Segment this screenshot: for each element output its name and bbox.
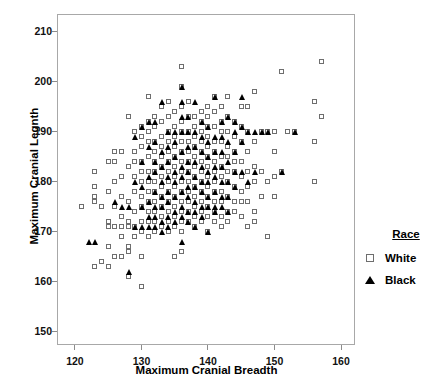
data-point-white — [279, 69, 284, 74]
data-point-black — [152, 169, 158, 175]
data-point-white — [312, 139, 317, 144]
data-point-white — [225, 154, 230, 159]
data-point-black — [172, 219, 178, 225]
data-point-black — [192, 99, 198, 105]
data-point-black — [172, 209, 178, 215]
data-point-white — [199, 109, 204, 114]
x-axis-tick — [207, 345, 208, 350]
data-point-white — [99, 259, 104, 264]
data-point-black — [225, 194, 231, 200]
data-point-black — [212, 134, 218, 140]
data-point-black — [165, 174, 171, 180]
data-point-black — [225, 179, 231, 185]
data-point-black — [205, 179, 211, 185]
data-point-white — [192, 114, 197, 119]
data-point-black — [225, 209, 231, 215]
data-point-white — [139, 254, 144, 259]
y-axis-tick-label: 200 — [18, 76, 52, 86]
data-point-black — [165, 129, 171, 135]
data-point-black — [179, 149, 185, 155]
data-point-white — [172, 109, 177, 114]
data-point-white — [179, 249, 184, 254]
data-point-white — [139, 194, 144, 199]
data-point-black — [146, 119, 152, 125]
data-point-white — [119, 234, 124, 239]
data-point-white — [126, 164, 131, 169]
data-point-white — [172, 124, 177, 129]
data-point-black — [165, 214, 171, 220]
legend-item-white[interactable]: White — [361, 248, 440, 268]
data-point-black — [112, 199, 118, 205]
data-point-white — [106, 159, 111, 164]
data-point-black — [165, 159, 171, 165]
data-point-black — [205, 124, 211, 130]
data-point-black — [185, 129, 191, 135]
data-point-white — [232, 199, 237, 204]
y-axis-tick-label: 160 — [18, 276, 52, 286]
data-point-black — [152, 214, 158, 220]
x-axis-tick-label: 120 — [66, 355, 84, 367]
data-point-black — [259, 129, 265, 135]
data-point-white — [199, 199, 204, 204]
data-point-white — [126, 199, 131, 204]
data-point-white — [179, 199, 184, 204]
data-point-white — [172, 254, 177, 259]
data-point-white — [139, 179, 144, 184]
data-point-black — [199, 214, 205, 220]
data-point-white — [172, 164, 177, 169]
data-point-black — [185, 194, 191, 200]
data-point-black — [265, 129, 271, 135]
data-point-white — [159, 174, 164, 179]
data-point-white — [205, 104, 210, 109]
data-point-white — [259, 194, 264, 199]
data-point-black — [192, 209, 198, 215]
data-point-white — [252, 179, 257, 184]
data-point-white — [92, 184, 97, 189]
data-point-black — [146, 214, 152, 220]
data-point-black — [199, 204, 205, 210]
data-point-black — [179, 129, 185, 135]
data-point-black — [185, 169, 191, 175]
legend-title: Race — [374, 228, 438, 240]
data-point-black — [146, 144, 152, 150]
data-point-white — [172, 204, 177, 209]
data-point-white — [159, 214, 164, 219]
data-point-white — [92, 199, 97, 204]
data-point-white — [152, 199, 157, 204]
data-point-black — [199, 164, 205, 170]
legend-item-black[interactable]: Black — [361, 270, 440, 290]
data-point-white — [319, 59, 324, 64]
data-point-white — [239, 199, 244, 204]
data-point-black — [199, 149, 205, 155]
plot-area — [57, 14, 355, 345]
data-point-white — [319, 114, 324, 119]
data-point-black — [192, 224, 198, 230]
y-axis-tick — [52, 231, 57, 232]
data-point-black — [179, 214, 185, 220]
data-point-black — [165, 224, 171, 230]
y-axis-tick-label: 180 — [18, 176, 52, 186]
data-point-white — [245, 104, 250, 109]
data-point-black — [199, 134, 205, 140]
data-point-white — [159, 119, 164, 124]
data-point-black — [205, 169, 211, 175]
data-point-black — [219, 134, 225, 140]
data-point-white — [106, 264, 111, 269]
scatter-plot-figure: Maximum Cranial Legnth Maximum Cranial B… — [0, 0, 440, 387]
data-point-black — [179, 174, 185, 180]
data-point-black — [139, 224, 145, 230]
data-point-white — [312, 179, 317, 184]
data-point-black — [199, 189, 205, 195]
data-point-white — [219, 104, 224, 109]
data-point-white — [119, 149, 124, 154]
data-point-white — [146, 189, 151, 194]
data-point-white — [219, 174, 224, 179]
open-square-icon — [361, 254, 379, 262]
data-point-white — [199, 159, 204, 164]
data-point-white — [225, 129, 230, 134]
data-point-black — [139, 124, 145, 130]
data-point-white — [166, 114, 171, 119]
data-point-white — [152, 179, 157, 184]
data-point-black — [185, 184, 191, 190]
y-axis-tick — [52, 131, 57, 132]
